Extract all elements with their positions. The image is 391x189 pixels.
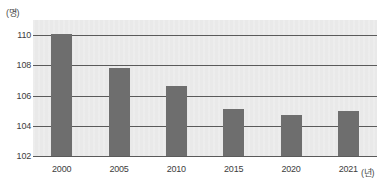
y-axis-tick-label: 110 [5, 30, 31, 40]
x-axis-tick-label: 2000 [34, 164, 90, 174]
x-axis-tick-label: 2005 [91, 164, 147, 174]
x-axis-tick-label: 2010 [148, 164, 204, 174]
plot-area [33, 20, 377, 156]
gridline [33, 96, 377, 97]
bar [109, 68, 130, 156]
y-axis-tick-label: 104 [5, 121, 31, 131]
bar [281, 115, 302, 156]
y-axis-tick-label: 106 [5, 91, 31, 101]
y-axis-tick-label: 108 [5, 60, 31, 70]
bar [338, 111, 359, 156]
bar [51, 34, 72, 156]
x-axis-tick-label: 2015 [206, 164, 262, 174]
gridline [33, 65, 377, 66]
bar-chart: (명) 102104106108110 20002005201020152020… [0, 0, 391, 189]
y-axis-tick-label: 102 [5, 151, 31, 161]
x-axis-unit-label: (년) [361, 166, 374, 179]
gridline [33, 126, 377, 127]
gridline [33, 35, 377, 36]
y-axis-unit-label: (명) [6, 6, 19, 19]
x-axis-tick-label: 2020 [263, 164, 319, 174]
gridline [33, 156, 377, 157]
bar [166, 86, 187, 156]
bar [223, 109, 244, 156]
plot-texture [33, 20, 377, 156]
